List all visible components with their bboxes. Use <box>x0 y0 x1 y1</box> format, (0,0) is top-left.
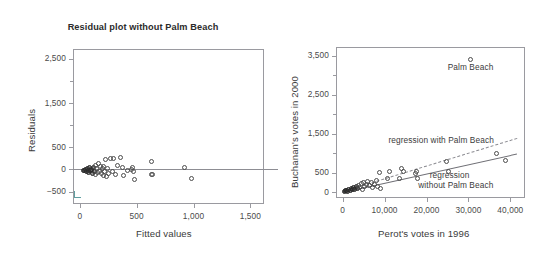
y-tick-label: 2,500 <box>284 89 329 99</box>
x-tick <box>385 198 386 202</box>
y-tick-label: 3,500 <box>284 50 329 60</box>
x-tick <box>250 204 251 208</box>
y-tick-minor <box>333 114 336 115</box>
y-tick-label: 1,500 <box>284 128 329 138</box>
y-tick <box>69 192 73 193</box>
y-tick-minor <box>70 125 73 126</box>
x-tick-label: 500 <box>111 211 163 221</box>
y-tick <box>332 56 336 57</box>
y-tick <box>332 134 336 135</box>
y-tick-minor <box>333 75 336 76</box>
y-tick-label: 500 <box>284 167 329 177</box>
data-point-marker <box>377 170 382 175</box>
y-tick <box>332 192 336 193</box>
regression-with-label: regression with Palm Beach <box>381 135 501 146</box>
data-point-marker <box>120 165 125 170</box>
y-tick-label: −500 <box>21 186 66 196</box>
y-tick <box>69 59 73 60</box>
x-tick <box>468 198 469 202</box>
y-tick <box>69 147 73 148</box>
y-tick-label: 0 <box>284 187 329 197</box>
data-point-marker <box>121 173 126 178</box>
regression-without-label-line2: without Palm Beach <box>396 180 516 191</box>
y-tick <box>332 173 336 174</box>
data-point-marker <box>132 177 137 182</box>
x-axis-title-left: Fitted values <box>136 228 192 239</box>
chart-panel-right: Buchanan's votes in 2000 Perot's votes i… <box>277 0 554 255</box>
data-point-marker <box>150 172 155 177</box>
chart-panel-left: Residual plot without Palm Beach Residua… <box>0 0 277 255</box>
x-tick-label: 40,000 <box>484 205 536 215</box>
x-tick <box>510 198 511 202</box>
y-tick-label: 0 <box>21 164 66 174</box>
x-axis-title-right: Perot's votes in 1996 <box>378 228 469 239</box>
y-tick-label: 1,500 <box>21 98 66 108</box>
frame-accent-left <box>74 197 81 198</box>
x-tick <box>343 198 344 202</box>
y-tick <box>69 103 73 104</box>
x-tick-label: 1,000 <box>168 211 220 221</box>
x-tick <box>194 204 195 208</box>
data-point-marker <box>378 186 383 191</box>
x-tick <box>427 198 428 202</box>
data-point-marker <box>149 159 154 164</box>
regression-without-label-line1: regression <box>390 170 510 181</box>
figure-root: Residual plot without Palm Beach Residua… <box>0 0 554 255</box>
x-tick-label: 0 <box>54 211 106 221</box>
y-tick-minor <box>333 153 336 154</box>
plot-frame-left <box>73 49 264 204</box>
y-tick-label: 2,500 <box>21 53 66 63</box>
y-tick-minor <box>70 81 73 82</box>
data-point-marker <box>444 159 449 164</box>
chart-title-left: Residual plot without Palm Beach <box>18 22 268 32</box>
x-tick <box>137 204 138 208</box>
y-tick <box>332 95 336 96</box>
palm-beach-label: Palm Beach <box>411 62 531 73</box>
x-tick-label: 1,500 <box>224 211 276 221</box>
y-tick-label: 500 <box>21 142 66 152</box>
frame-accent-left-v <box>74 191 75 198</box>
x-tick <box>80 204 81 208</box>
